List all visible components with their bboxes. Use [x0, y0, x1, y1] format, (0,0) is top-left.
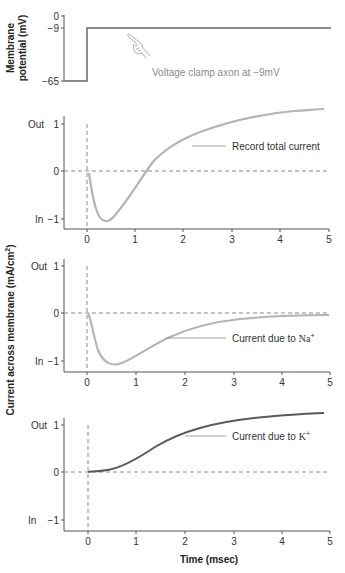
current-ylabel: Current across membrane (mA/cm2): [4, 244, 16, 415]
membrane-ylabel-line2: potential (mV): [17, 15, 28, 82]
svg-text:1: 1: [133, 377, 139, 388]
membrane-potential-panel: Membrane potential (mV) 0 −9 −65 Voltage…: [5, 11, 331, 87]
total-current-label: Record total current: [232, 141, 320, 152]
svg-text:1: 1: [53, 420, 59, 431]
svg-text:5: 5: [327, 377, 333, 388]
in-label: In: [35, 214, 43, 225]
svg-text:0: 0: [84, 377, 90, 388]
svg-text:Out: Out: [31, 261, 47, 272]
svg-text:0: 0: [53, 467, 59, 478]
k-current-label: Current due to K+: [232, 430, 310, 442]
svg-text:5: 5: [327, 536, 333, 547]
svg-text:0: 0: [53, 308, 59, 319]
svg-text:1: 1: [132, 234, 138, 245]
svg-text:0: 0: [53, 166, 59, 177]
total-current-curve: [89, 109, 324, 221]
x-tick-labels: 0 1 2 3 4 5: [84, 377, 333, 388]
ytick-label-65: −65: [42, 76, 59, 87]
out-label: Out: [28, 119, 44, 130]
svg-text:In: In: [35, 356, 43, 367]
svg-text:1: 1: [53, 119, 59, 130]
svg-text:0: 0: [85, 536, 91, 547]
svg-text:4: 4: [277, 234, 283, 245]
svg-text:3: 3: [231, 377, 237, 388]
svg-text:0: 0: [84, 234, 90, 245]
k-current-panel: Out 1 0 In −1 0 1 2 3 4 5 Current due to…: [28, 413, 333, 565]
k-current-curve: [88, 413, 324, 472]
svg-text:−1: −1: [48, 356, 60, 367]
ytick-label-0: 0: [53, 11, 59, 22]
svg-text:−1: −1: [48, 214, 60, 225]
na-current-panel: Out 1 0 In −1 0 1 2 3 4 5 Current due to…: [31, 259, 333, 388]
svg-text:4: 4: [279, 536, 285, 547]
svg-text:4: 4: [279, 377, 285, 388]
total-current-panel: Out 1 0 In −1 0 1 2 3 4 5 Record total c…: [28, 109, 332, 245]
clamp-annotation: Voltage clamp axon at −9mV: [152, 67, 280, 78]
svg-text:Out: Out: [31, 420, 47, 431]
svg-text:1: 1: [53, 261, 59, 272]
na-current-label: Current due to Na+: [232, 332, 314, 344]
svg-text:5: 5: [326, 234, 332, 245]
pointing-hand-icon: [128, 34, 150, 58]
figure: Membrane potential (mV) 0 −9 −65 Voltage…: [0, 0, 345, 573]
svg-text:−1: −1: [48, 515, 60, 526]
svg-text:3: 3: [231, 536, 237, 547]
membrane-ylabel-line1: Membrane: [5, 23, 16, 73]
ytick-label-9: −9: [48, 23, 60, 34]
svg-text:3: 3: [229, 234, 235, 245]
svg-text:2: 2: [180, 234, 186, 245]
x-axis-label: Time (msec): [180, 554, 238, 565]
x-tick-labels: 0 1 2 3 4 5: [85, 536, 333, 547]
svg-text:2: 2: [182, 377, 188, 388]
svg-text:In: In: [28, 515, 36, 526]
svg-text:1: 1: [133, 536, 139, 547]
x-tick-labels: 0 1 2 3 4 5: [84, 234, 332, 245]
svg-text:2: 2: [182, 536, 188, 547]
